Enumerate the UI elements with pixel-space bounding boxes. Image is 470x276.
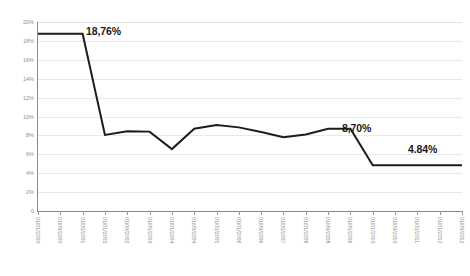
data-label: 4.84% [408,143,437,155]
data-label: 8,70% [342,122,371,134]
data-label: 18,76% [86,25,121,37]
data-series-line [0,0,470,276]
line-chart: 02%4%6%8%10%12%14%16%18%20% 01/01/200001… [0,0,470,276]
